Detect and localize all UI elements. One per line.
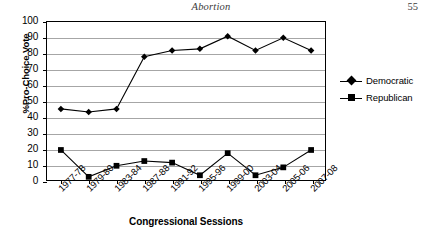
y-axis-tick-label: 80 <box>8 48 38 58</box>
running-head-title: Abortion <box>0 1 422 12</box>
x-axis-title: Congressional Sessions <box>46 216 326 227</box>
data-point-marker <box>141 54 148 61</box>
y-axis-tick-label: 100 <box>8 16 38 26</box>
y-axis-tick-label: 50 <box>8 96 38 106</box>
line-chart: %Pro-Choice Vote 1009080706050403020100 … <box>0 14 422 237</box>
y-axis-tick-label: 20 <box>8 144 38 154</box>
y-axis-tick-label: 70 <box>8 64 38 74</box>
data-point-marker <box>169 160 175 166</box>
data-point-marker <box>58 147 64 153</box>
legend-label: Republican <box>366 92 413 103</box>
data-point-marker <box>113 106 120 113</box>
data-point-marker <box>58 106 65 113</box>
data-point-marker <box>197 46 204 53</box>
y-axis-tick-label: 10 <box>8 160 38 170</box>
y-axis-tick-label: 60 <box>8 80 38 90</box>
data-series-layer <box>47 22 325 180</box>
data-point-marker <box>224 33 231 40</box>
data-point-marker <box>280 35 287 42</box>
series-line <box>61 36 311 112</box>
y-axis-tick-label: 40 <box>8 112 38 122</box>
data-point-marker <box>252 47 259 54</box>
data-point-marker <box>141 158 147 164</box>
series-democratic <box>58 33 315 115</box>
plot-area <box>46 21 326 181</box>
legend-label: Democratic <box>366 75 413 86</box>
legend-diamond-marker-icon <box>347 76 357 86</box>
data-point-marker <box>225 150 231 156</box>
legend-entry-democratic: Democratic <box>340 74 422 91</box>
legend-square-marker-icon <box>348 94 355 101</box>
data-point-marker <box>253 172 259 178</box>
y-axis-tick-label: 90 <box>8 32 38 42</box>
data-point-marker <box>197 172 203 178</box>
y-axis-tick-labels: 1009080706050403020100 <box>8 14 38 184</box>
y-axis-tick-label: 0 <box>8 176 38 186</box>
data-point-marker <box>169 47 176 54</box>
data-point-marker <box>308 147 314 153</box>
page-number: 55 <box>408 1 419 12</box>
y-axis-tick-label: 30 <box>8 128 38 138</box>
data-point-marker <box>308 47 315 54</box>
legend-entry-republican: Republican <box>340 91 422 108</box>
chart-legend: DemocraticRepublican <box>340 74 422 108</box>
data-point-marker <box>114 163 120 169</box>
data-point-marker <box>85 109 92 116</box>
